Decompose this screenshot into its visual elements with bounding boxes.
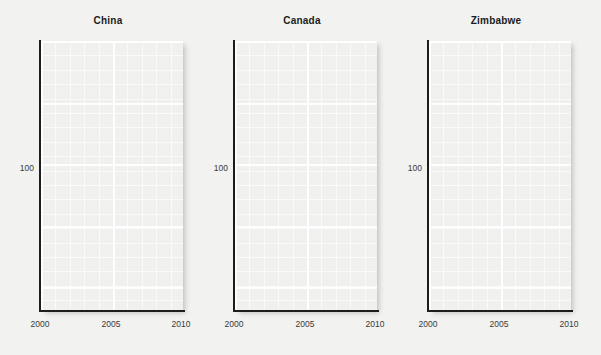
gridlines-major-canada — [235, 41, 377, 311]
facet-panel-zimbabwe: Zimbabwe 100 2000 2005 2010 — [388, 0, 591, 355]
x-axis-line-zimbabwe — [427, 310, 573, 312]
x-tick-label-zimbabwe-2010: 2010 — [554, 319, 584, 329]
x-tick-label-canada-2010: 2010 — [360, 319, 390, 329]
x-tick-label-zimbabwe-2005: 2005 — [484, 319, 514, 329]
facet-title-china: China — [17, 15, 199, 27]
gridlines-minor-canada — [235, 41, 377, 311]
x-tick-label-canada-2005: 2005 — [290, 319, 320, 329]
y-tick-label-zimbabwe-100: 100 — [388, 163, 422, 173]
x-tick-label-china-2010: 2010 — [166, 319, 196, 329]
y-axis-line-canada — [233, 40, 235, 312]
chart-figure: China 100 2000 2005 2010 Canada 100 2000… — [0, 0, 601, 355]
x-axis-line-canada — [233, 310, 379, 312]
plot-area-zimbabwe — [429, 41, 571, 311]
gridlines-major-zimbabwe — [429, 41, 571, 311]
facet-title-zimbabwe: Zimbabwe — [405, 15, 587, 27]
x-tick-label-canada-2000: 2000 — [219, 319, 249, 329]
x-tick-label-zimbabwe-2000: 2000 — [413, 319, 443, 329]
gridlines-major-china — [41, 41, 183, 311]
facet-title-canada: Canada — [211, 15, 393, 27]
gridlines-minor-zimbabwe — [429, 41, 571, 311]
y-tick-label-canada-100: 100 — [194, 163, 228, 173]
x-axis-line-china — [39, 310, 185, 312]
facet-panel-canada: Canada 100 2000 2005 2010 — [194, 0, 390, 355]
y-tick-label-china-100: 100 — [0, 163, 34, 173]
x-tick-label-china-2000: 2000 — [25, 319, 55, 329]
plot-area-china — [41, 41, 183, 311]
x-tick-label-china-2005: 2005 — [96, 319, 126, 329]
y-axis-line-zimbabwe — [427, 40, 429, 312]
facet-panel-china: China 100 2000 2005 2010 — [0, 0, 196, 355]
gridlines-minor-china — [41, 41, 183, 311]
plot-area-canada — [235, 41, 377, 311]
y-axis-line-china — [39, 40, 41, 312]
